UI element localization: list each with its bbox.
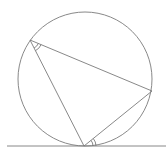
angle-mark-a-inner: [34, 44, 38, 49]
angle-mark-a-outer: [35, 45, 41, 51]
chord-ab: [30, 40, 152, 91]
tangent-chord-diagram: [0, 0, 168, 155]
chord-ac: [30, 40, 84, 146]
angle-mark-c-inner: [91, 140, 93, 146]
circle: [18, 12, 152, 146]
